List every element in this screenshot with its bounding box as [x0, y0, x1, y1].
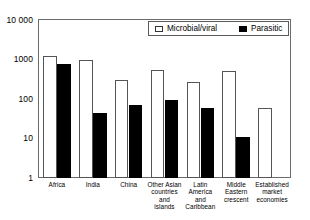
chart-legend: Microbial/viralParasitic [148, 21, 289, 36]
bars-layer [39, 20, 290, 178]
bar-chart: 10 0001000100101 AfricaIndiaChinaOther A… [0, 0, 310, 220]
legend-label: Parasitic [251, 24, 282, 33]
bar-group [147, 20, 183, 178]
bar-microbial-viral [79, 60, 93, 179]
bar-microbial-viral [187, 82, 201, 178]
bar-group [182, 20, 218, 178]
bar-group [39, 20, 75, 178]
y-axis-tick-label: 10 [23, 134, 33, 143]
y-axis-tick-label: 10 000 [6, 16, 33, 25]
y-axis: 10 0001000100101 [0, 0, 36, 220]
bar-microbial-viral [115, 80, 129, 178]
bar-parasitic [93, 113, 107, 178]
y-axis-tick-label: 100 [19, 95, 33, 104]
x-axis: AfricaIndiaChinaOther Asian countries an… [39, 181, 290, 220]
bar-microbial-viral [258, 108, 272, 178]
legend-entry: Parasitic [239, 24, 282, 33]
bar-microbial-viral [43, 56, 57, 178]
bar-parasitic [236, 137, 250, 178]
bar-group [254, 20, 290, 178]
legend-label: Microbial/viral [167, 24, 217, 33]
bar-group [218, 20, 254, 178]
legend-entry: Microbial/viral [155, 24, 217, 33]
bar-parasitic [129, 105, 143, 178]
bar-microbial-viral [151, 70, 165, 178]
y-axis-tick-label: 1000 [14, 55, 33, 64]
bar-microbial-viral [222, 71, 236, 178]
bar-group [111, 20, 147, 178]
y-axis-tick-label: 1 [28, 174, 33, 183]
bar-parasitic [57, 64, 71, 178]
open-square-icon [155, 26, 163, 32]
bar-parasitic [165, 100, 179, 178]
filled-square-icon [239, 26, 247, 32]
x-axis-tick-label: Established market economies [250, 181, 294, 203]
bar-group [75, 20, 111, 178]
bar-parasitic [201, 108, 215, 178]
